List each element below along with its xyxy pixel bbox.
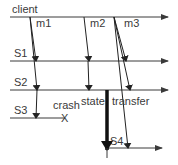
message-m2: m2	[84, 17, 105, 90]
sequence-diagram: client S1 S2 S3 S4 m1 m2 m3 crash X	[0, 0, 178, 165]
message-m3: m3	[114, 17, 139, 148]
state-label: state	[81, 95, 105, 107]
transfer-label: transfer	[112, 95, 150, 107]
message-label-m3: m3	[124, 17, 139, 29]
timeline-s4: S4	[108, 135, 162, 148]
message-label-m2: m2	[90, 17, 105, 29]
timeline-label-s1: S1	[14, 47, 27, 59]
timeline-label-s4: S4	[110, 135, 123, 147]
timeline-label-client: client	[12, 3, 38, 15]
crash-event: crash X	[53, 99, 80, 124]
crash-x-mark: X	[61, 112, 69, 124]
message-label-m1: m1	[36, 17, 51, 29]
crash-label: crash	[53, 99, 80, 111]
timeline-label-s3: S3	[14, 104, 27, 116]
timeline-label-s2: S2	[14, 76, 27, 88]
timeline-client: client	[10, 3, 168, 17]
message-m1: m1	[30, 17, 51, 118]
